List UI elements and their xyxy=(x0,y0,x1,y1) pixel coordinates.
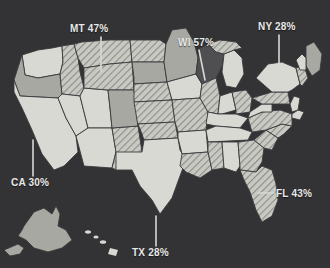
state-nj[interactable] xyxy=(290,96,300,112)
callout-label-ny: NY 28% xyxy=(258,22,296,32)
state-nd[interactable] xyxy=(130,40,166,62)
state-ny[interactable] xyxy=(256,62,300,92)
state-pa[interactable] xyxy=(252,92,290,104)
state-tn[interactable] xyxy=(206,126,252,142)
state-ne[interactable] xyxy=(134,82,172,102)
callout-label-ca: CA 30% xyxy=(11,178,49,188)
callout-label-mt: MT 47% xyxy=(70,24,108,34)
state-hi[interactable] xyxy=(85,230,118,256)
state-ak-tail[interactable] xyxy=(4,244,24,256)
callout-label-fl: FL 43% xyxy=(276,189,312,199)
callout-label-wi: WI 57% xyxy=(178,38,214,48)
states-layer xyxy=(4,28,322,256)
state-ak[interactable] xyxy=(18,206,72,252)
us-map-svg xyxy=(0,0,330,268)
state-ar[interactable] xyxy=(178,130,208,154)
state-la[interactable] xyxy=(180,152,212,178)
state-co[interactable] xyxy=(108,90,138,128)
callout-label-tx: TX 28% xyxy=(132,248,169,258)
state-ok[interactable] xyxy=(138,122,178,140)
state-az[interactable] xyxy=(76,128,116,168)
state-wa[interactable] xyxy=(22,46,63,78)
state-me[interactable] xyxy=(306,42,322,76)
state-sd[interactable] xyxy=(132,62,167,84)
us-percentage-map-figure: MT 47% WI 57% NY 28% CA 30% FL 43% TX 28… xyxy=(0,0,330,268)
state-mi-lp[interactable] xyxy=(222,50,244,88)
state-al[interactable] xyxy=(222,142,240,172)
state-fl[interactable] xyxy=(240,166,278,222)
state-ky[interactable] xyxy=(206,112,248,128)
